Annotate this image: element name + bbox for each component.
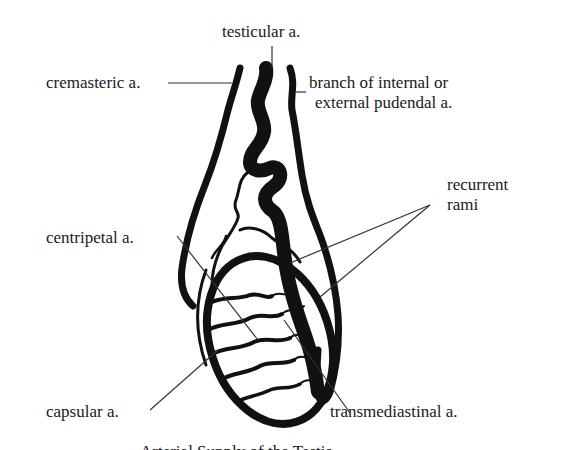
label-testicular: testicular a. [222, 22, 300, 41]
leader-recurrent-2 [320, 205, 430, 297]
label-transmediastinal: transmediastinal a. [330, 402, 457, 421]
label-recurrent-line1: recurrent [447, 175, 508, 194]
testis-artery-diagram [0, 0, 564, 450]
label-centripetal: centripetal a. [46, 228, 134, 247]
cremasteric-artery [181, 68, 240, 306]
label-cremasteric: cremasteric a. [46, 73, 140, 92]
label-recurrent-line2: rami [447, 195, 478, 214]
label-pudendal-line1: branch of internal or [309, 73, 448, 92]
figure-caption-cut-off: Arterial Supply of the Testis [140, 441, 332, 450]
label-pudendal-line2: external pudendal a. [315, 93, 452, 112]
leader-capsular [150, 350, 218, 410]
label-capsular: capsular a. [46, 402, 119, 421]
